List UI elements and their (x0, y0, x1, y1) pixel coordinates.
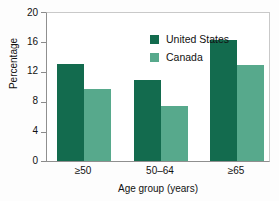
y-tick-label-16: 16 (16, 37, 38, 47)
y-axis-tick-labels: 20 16 12 8 4 0 (14, 0, 38, 201)
x-tick-label-50plus: ≥50 (53, 166, 113, 176)
legend-label-canada: Canada (166, 52, 203, 63)
bar-us-50-64 (134, 80, 161, 161)
bar-chart: Percentage 20 16 12 8 4 0 United States (0, 0, 279, 201)
bar-us-50plus (57, 64, 84, 162)
legend-item-canada: Canada (150, 50, 229, 65)
y-tick-label-4: 4 (16, 126, 38, 136)
legend-swatch-icon-canada (150, 53, 159, 62)
bar-canada-65plus (237, 65, 264, 161)
x-tick-label-65plus: ≥65 (206, 166, 266, 176)
bar-canada-50plus (84, 89, 111, 161)
plot-area: United States Canada (46, 12, 270, 162)
x-axis-title: Age group (years) (46, 183, 270, 194)
legend-label-united-states: United States (166, 34, 229, 45)
y-tick-label-20: 20 (16, 8, 38, 18)
x-axis-tick-labels: ≥50 50–64 ≥65 (46, 166, 270, 180)
x-tick-label-50-64: 50–64 (130, 166, 190, 176)
y-tick-label-0: 0 (16, 156, 38, 166)
y-tick-label-12: 12 (16, 66, 38, 76)
y-tick-label-8: 8 (16, 96, 38, 106)
legend-swatch-icon-united-states (150, 35, 159, 44)
bar-canada-50-64 (161, 106, 188, 162)
legend: United States Canada (150, 32, 229, 68)
legend-item-united-states: United States (150, 32, 229, 47)
